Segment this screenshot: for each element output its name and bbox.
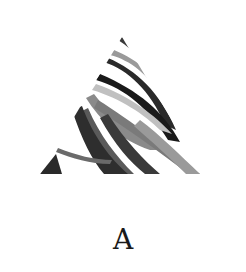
- figure-caption: A: [0, 222, 246, 258]
- triangle-logo-icon: [0, 0, 246, 200]
